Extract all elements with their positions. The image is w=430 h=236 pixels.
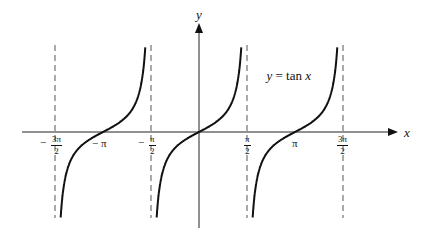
- equation-x: x: [305, 68, 311, 83]
- tick-minus-sign: −: [40, 136, 46, 148]
- tick-label-3pi-over-2: 3π 2: [337, 135, 348, 156]
- frac-den: 2: [245, 146, 250, 156]
- tick-minus-sign: −: [138, 136, 144, 148]
- frac-num: π: [149, 135, 156, 146]
- x-axis-arrow-icon: [388, 128, 398, 136]
- equation-label: y = tan x: [260, 56, 311, 82]
- tick-label-pi-over-2: π 2: [244, 135, 251, 156]
- tick-label-pi: π: [292, 138, 298, 149]
- x-axis-label: x: [404, 126, 410, 139]
- frac-num: 3π: [51, 135, 62, 146]
- frac-num: π: [244, 135, 251, 146]
- frac-den: 2: [54, 146, 59, 156]
- y-axis-arrow-icon: [195, 23, 203, 33]
- tick-label-neg-pi-over-2: π 2: [149, 135, 156, 156]
- tick-label-neg-pi: − π: [92, 138, 107, 149]
- frac-den: 2: [150, 146, 155, 156]
- tan-plot: [0, 0, 430, 236]
- equation-body: = tan: [272, 68, 305, 83]
- tick-label-neg-3pi-over-2: 3π 2: [51, 135, 62, 156]
- frac-den: 2: [340, 146, 345, 156]
- frac-num: 3π: [337, 135, 348, 146]
- y-axis-label: y: [196, 8, 202, 21]
